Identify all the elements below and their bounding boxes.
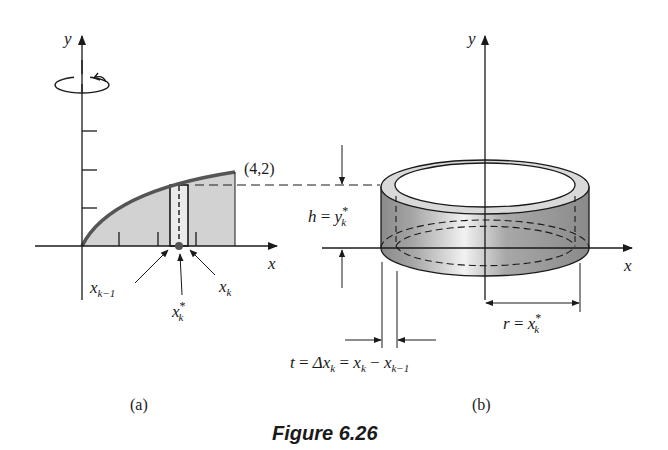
panel-a-graph: [35, 36, 277, 300]
figure-caption: Figure 6.26: [272, 422, 378, 445]
height-label: h = y*k: [308, 205, 346, 228]
rotation-arrow-icon: [55, 60, 109, 93]
x-k-label: xk: [219, 278, 231, 298]
y-axis-label-b: y: [468, 30, 476, 47]
sample-point: [175, 242, 183, 250]
x-k-minus-1-label: xk−1: [90, 279, 115, 299]
radius-label: r = x*k: [503, 312, 539, 335]
y-axis-label-a: y: [64, 30, 72, 47]
panel-a-label: (a): [130, 397, 148, 413]
x-axis-label-a: x: [268, 255, 276, 272]
thickness-label: t = Δxk = xk − xk−1: [290, 354, 409, 374]
panel-b-label: (b): [472, 397, 491, 413]
x-axis-label-b: x: [624, 257, 632, 274]
x-k-star-label: x*k: [172, 300, 183, 323]
panel-b-shell: [322, 36, 632, 348]
point-label: (4,2): [244, 161, 275, 177]
